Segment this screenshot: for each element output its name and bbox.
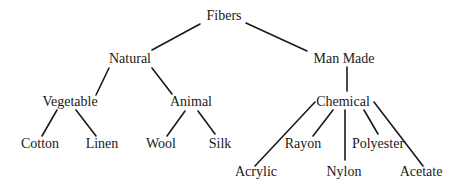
node-nylon: Nylon <box>327 164 362 180</box>
edge-animal-silk <box>198 111 215 134</box>
node-acrylic: Acrylic <box>235 164 277 180</box>
edge-fibers-man-made <box>246 23 307 51</box>
node-natural: Natural <box>109 51 151 67</box>
node-animal: Animal <box>170 94 212 110</box>
edge-chemical-polyester <box>364 110 378 134</box>
edge-chemical-rayon <box>313 110 333 136</box>
node-cotton: Cotton <box>21 136 59 152</box>
edge-vegetable-cotton <box>42 110 57 136</box>
node-acetate: Acetate <box>400 164 443 180</box>
node-wool: Wool <box>146 136 176 152</box>
node-man-made: Man Made <box>313 51 374 67</box>
edge-animal-wool <box>167 111 185 136</box>
edge-chemical-acetate <box>374 102 423 166</box>
edge-vegetable-linen <box>76 110 96 136</box>
node-silk: Silk <box>209 136 232 152</box>
fiber-classification-tree: FibersNaturalMan MadeVegetableAnimalChem… <box>0 0 465 191</box>
node-rayon: Rayon <box>285 136 322 152</box>
edge-natural-vegetable <box>96 68 109 95</box>
node-polyester: Polyester <box>352 136 404 152</box>
edge-fibers-natural <box>152 24 200 50</box>
edge-natural-animal <box>152 68 172 94</box>
node-fibers: Fibers <box>207 8 242 24</box>
node-chemical: Chemical <box>316 94 370 110</box>
edge-chemical-acrylic <box>255 102 315 166</box>
node-linen: Linen <box>86 136 119 152</box>
node-vegetable: Vegetable <box>42 94 97 110</box>
